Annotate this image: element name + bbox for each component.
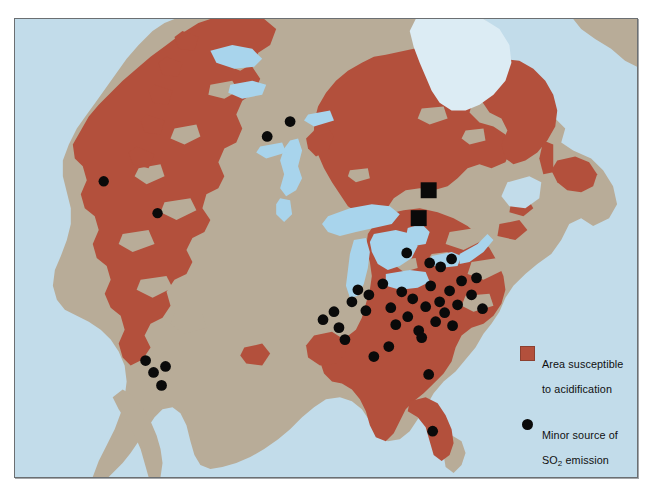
minor-source-marker xyxy=(148,367,159,378)
minor-source-marker xyxy=(466,289,477,300)
minor-source-marker xyxy=(285,116,296,127)
minor-source-marker xyxy=(329,306,340,317)
minor-source-marker xyxy=(430,316,441,327)
minor-source-marker xyxy=(368,351,379,362)
legend-marker-minor xyxy=(520,416,542,430)
area-swatch-icon xyxy=(520,346,535,361)
so2-suffix: emission xyxy=(562,454,609,466)
minor-source-marker xyxy=(416,332,427,343)
legend-item-minor-source: Minor source of SO2 emission (100,000–50… xyxy=(520,416,638,478)
minor-source-marker xyxy=(377,278,388,289)
legend-label-minor: Minor source of SO2 emission (100,000–50… xyxy=(542,416,638,478)
major-source-marker xyxy=(411,210,427,226)
so2-subscript: 2 xyxy=(558,459,563,468)
map-figure: Area susceptible to acidification Minor … xyxy=(0,0,652,498)
legend-marker-area xyxy=(520,345,542,361)
minor-source-marker xyxy=(420,301,431,312)
minor-source-marker xyxy=(424,258,435,269)
minor-source-marker xyxy=(360,305,371,316)
minor-source-marker xyxy=(425,280,436,291)
minor-source-marker xyxy=(447,320,458,331)
legend-minor-line1: Minor source of xyxy=(542,429,638,442)
legend-area-line2: to acidification xyxy=(542,383,623,396)
map-legend: Area susceptible to acidification Minor … xyxy=(507,337,638,478)
legend-minor-line2: SO2 emission xyxy=(542,454,638,469)
minor-source-marker xyxy=(383,341,394,352)
minor-source-marker xyxy=(340,334,351,345)
map-canvas: Area susceptible to acidification Minor … xyxy=(14,18,638,478)
minor-source-marker xyxy=(99,176,109,186)
minor-source-marker xyxy=(471,272,482,283)
minor-source-marker xyxy=(435,262,446,273)
minor-source-marker xyxy=(363,289,374,300)
minor-source-marker xyxy=(156,380,167,391)
minor-source-marker xyxy=(439,307,450,318)
minor-source-marker xyxy=(401,248,412,259)
minor-source-dot-icon xyxy=(522,419,533,430)
legend-area-line1: Area susceptible xyxy=(542,358,623,371)
minor-source-marker xyxy=(262,131,273,142)
legend-item-area: Area susceptible to acidification xyxy=(520,345,638,409)
legend-label-area: Area susceptible to acidification xyxy=(542,345,623,409)
minor-source-marker xyxy=(385,302,396,313)
minor-source-marker xyxy=(396,286,407,297)
minor-source-marker xyxy=(477,303,488,314)
minor-source-marker xyxy=(423,369,434,380)
major-source-marker xyxy=(421,182,437,198)
minor-source-marker xyxy=(444,285,455,296)
minor-source-marker xyxy=(434,296,445,307)
minor-source-marker xyxy=(152,208,162,218)
minor-source-marker xyxy=(318,314,329,325)
minor-source-marker xyxy=(456,275,467,286)
so2-prefix: SO xyxy=(542,454,558,466)
minor-source-marker xyxy=(446,254,457,265)
minor-source-marker xyxy=(334,322,345,333)
minor-source-marker xyxy=(353,284,364,295)
minor-source-marker xyxy=(402,311,413,322)
minor-source-marker xyxy=(347,296,358,307)
minor-source-marker xyxy=(452,299,463,310)
minor-source-marker xyxy=(390,319,401,330)
minor-source-marker xyxy=(427,426,438,437)
minor-source-marker xyxy=(160,361,171,372)
minor-source-marker xyxy=(140,355,151,366)
minor-source-marker xyxy=(407,293,418,304)
